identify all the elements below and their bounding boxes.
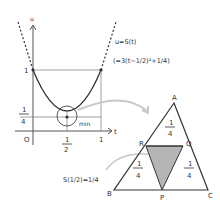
equation: u=S(t): [115, 38, 136, 46]
graph: u t O 1 1 4 1 2 1 min u=S(t) (=3(t−1/2)²…: [15, 15, 170, 154]
vertex-a: A: [172, 94, 177, 102]
area-top-den: 4: [168, 130, 173, 138]
area-left-den: 4: [136, 172, 141, 180]
vertex-c: C: [208, 192, 213, 200]
area-right-num: 1: [188, 160, 192, 168]
triangle: A B C P Q R 1 4 1 4 1 4: [107, 94, 213, 202]
min-point: [65, 115, 68, 118]
point-q: Q: [186, 140, 192, 148]
diagram: u t O 1 1 4 1 2 1 min u=S(t) (=3(t−1/2)²…: [0, 0, 220, 213]
x-tick-1: 1: [99, 136, 103, 144]
area-right-den: 4: [187, 172, 192, 180]
y-tick-quarter-num: 1: [22, 106, 26, 114]
result-label: S(1/2)=1/4: [63, 176, 99, 184]
y-tick-quarter-den: 4: [21, 118, 26, 126]
t-axis-label: t: [114, 128, 117, 136]
u-axis-label: u: [30, 15, 34, 22]
origin-label: O: [24, 136, 30, 144]
equation-expanded: (=3(t−1/2)²+1/4): [113, 57, 170, 65]
area-left-num: 1: [137, 160, 141, 168]
shaded-triangle-pqr: [146, 146, 183, 190]
arrow-to-shaded: [106, 154, 155, 170]
area-top-num: 1: [169, 119, 173, 127]
arrow-to-triangle: [78, 100, 148, 112]
x-tick-half-den: 2: [64, 146, 68, 154]
x-tick-half-num: 1: [65, 136, 69, 144]
y-tick-1: 1: [24, 67, 28, 75]
point-r: R: [139, 140, 144, 148]
point-p: P: [160, 194, 164, 202]
min-label: min: [79, 120, 91, 127]
vertex-b: B: [107, 190, 112, 198]
